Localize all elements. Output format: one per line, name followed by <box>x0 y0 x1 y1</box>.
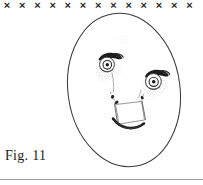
x-mark: × <box>19 0 25 11</box>
x-mark: × <box>125 0 131 11</box>
forehead-shading <box>112 35 132 45</box>
x-mark: × <box>171 0 177 11</box>
figure-page: ××××××××××××× Fig. 11 <box>0 0 203 185</box>
x-mark: × <box>34 0 40 11</box>
x-mark: × <box>49 0 55 11</box>
x-mark: × <box>4 0 10 11</box>
figure-caption: Fig. 11 <box>5 148 46 164</box>
x-mark: × <box>95 0 101 11</box>
chin-shading <box>118 127 140 135</box>
mouth-trapezoid <box>116 102 145 125</box>
x-mark: × <box>110 0 116 11</box>
x-mark: × <box>141 0 147 11</box>
x-mark: × <box>65 0 71 11</box>
left-eye-pupil <box>106 63 109 66</box>
right-eye-pupil <box>152 80 156 84</box>
x-mark: × <box>186 0 192 11</box>
x-mark: × <box>156 0 162 11</box>
x-mark: × <box>80 0 86 11</box>
